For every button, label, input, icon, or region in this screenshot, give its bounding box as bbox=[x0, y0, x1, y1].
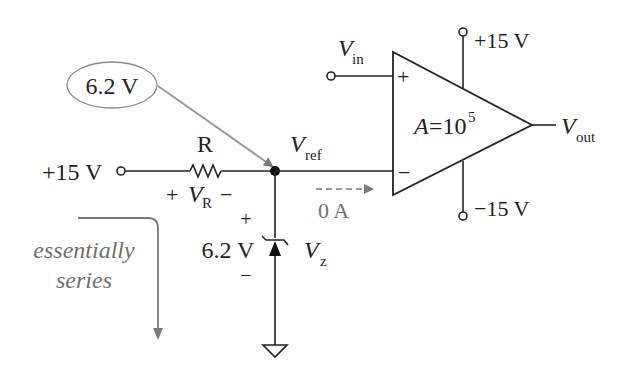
svg-text:−: − bbox=[398, 160, 410, 185]
down-arrow-icon bbox=[153, 328, 163, 340]
terminal-circle-icon bbox=[117, 167, 125, 175]
vout-terminal: V out bbox=[532, 113, 596, 145]
callout-arrow bbox=[158, 86, 272, 166]
svg-text:−15 V: −15 V bbox=[474, 196, 530, 221]
svg-text:R: R bbox=[202, 195, 212, 211]
svg-text:+: + bbox=[240, 208, 251, 230]
svg-text:+15 V: +15 V bbox=[42, 159, 103, 185]
svg-text:+: + bbox=[397, 64, 409, 89]
svg-text:essentially: essentially bbox=[33, 237, 135, 263]
zero-current-indicator: 0 A bbox=[316, 189, 372, 223]
zener-icon bbox=[269, 241, 281, 256]
svg-text:A: A bbox=[412, 113, 429, 139]
node-label-vref: V ref bbox=[290, 131, 322, 163]
svg-text:V: V bbox=[304, 237, 321, 263]
svg-text:+15 V: +15 V bbox=[474, 28, 530, 53]
svg-text:ref: ref bbox=[305, 147, 322, 163]
svg-text:−: − bbox=[220, 182, 232, 207]
svg-text:z: z bbox=[320, 253, 327, 269]
terminal-circle-icon bbox=[327, 72, 335, 80]
supply-negative: −15 V bbox=[459, 161, 530, 221]
series-annotation: essentially series bbox=[33, 218, 163, 340]
svg-text:0 A: 0 A bbox=[318, 198, 349, 223]
svg-text:−: − bbox=[240, 264, 251, 286]
svg-text:in: in bbox=[352, 51, 364, 67]
terminal-circle-icon bbox=[459, 28, 467, 36]
svg-text:6.2 V: 6.2 V bbox=[86, 73, 140, 99]
terminal-circle-icon bbox=[459, 212, 467, 220]
svg-text:5: 5 bbox=[468, 109, 476, 125]
callout-6v2: 6.2 V bbox=[67, 62, 272, 166]
circuit-diagram: 6.2 V +15 V R + V R − V ref 0 A + 6.2 V … bbox=[0, 0, 632, 386]
vin-terminal: V in bbox=[327, 35, 393, 80]
svg-text:=10: =10 bbox=[429, 113, 467, 139]
svg-text:6.2 V: 6.2 V bbox=[202, 237, 256, 263]
supply-positive: +15 V bbox=[459, 28, 530, 88]
svg-text:out: out bbox=[576, 129, 596, 145]
svg-text:series: series bbox=[56, 267, 112, 293]
svg-text:R: R bbox=[197, 131, 213, 157]
ground-icon bbox=[263, 345, 287, 357]
resistor-icon bbox=[190, 165, 221, 177]
svg-text:+: + bbox=[166, 182, 178, 207]
